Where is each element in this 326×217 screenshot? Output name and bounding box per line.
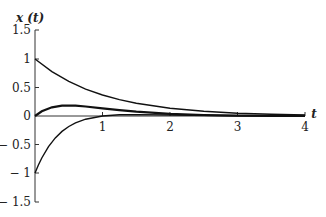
x-tick-labels: 1 2 3 4	[99, 120, 310, 134]
y-axis-title: x (t)	[15, 11, 44, 25]
x-tick-label: 1	[99, 120, 107, 134]
x-tick-label: 2	[166, 120, 174, 134]
y-tick-label: − 1	[9, 166, 31, 180]
y-tick-label: − 1.5	[0, 195, 31, 209]
y-tick-label: 1.5	[12, 23, 31, 37]
y-tick-label: 0	[23, 109, 31, 123]
y-tick-label: 0.5	[12, 81, 31, 95]
line-chart: 1.5 1 0.5 0 − 0.5 − 1 − 1.5 1 2 3 4 x (t…	[0, 0, 326, 217]
x-tick-label: 4	[301, 120, 309, 134]
y-tick-labels: 1.5 1 0.5 0 − 0.5 − 1 − 1.5	[0, 23, 31, 209]
y-tick-label: 1	[23, 52, 31, 66]
y-tick-label: − 0.5	[0, 138, 31, 152]
x-tick-label: 3	[234, 120, 242, 134]
x-axis-title: t	[311, 107, 317, 121]
